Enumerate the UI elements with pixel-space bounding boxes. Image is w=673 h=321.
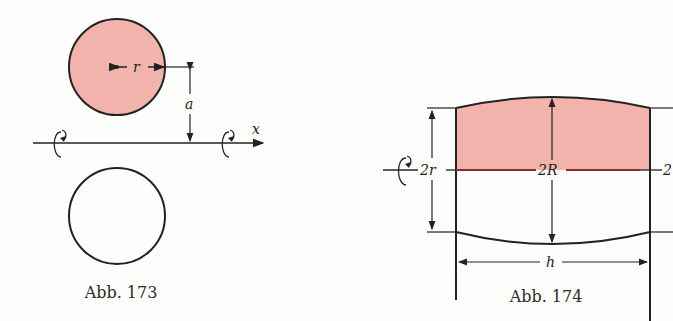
rotation-arrow-icon [54,132,61,157]
rotation-arrow-icon [222,132,229,157]
label-x: x [252,121,260,137]
label-2r: 2r [419,162,437,178]
filled-half-body [456,97,650,170]
caption-173: Abb. 173 [84,283,158,302]
outline-circle [69,168,165,264]
caption-174: Abb. 174 [509,287,583,306]
label-2R: 2R [537,162,558,178]
label-2-right: 2 [662,162,672,178]
label-h: h [546,254,555,270]
figure-173: r a x Abb. 173 [33,19,263,302]
figure-174: 2r 2R 2 h Abb. 174 [383,97,673,321]
label-a: a [185,96,193,112]
rotation-arrow-icon [399,158,407,185]
diagram-canvas: r a x Abb. 173 [0,0,673,321]
